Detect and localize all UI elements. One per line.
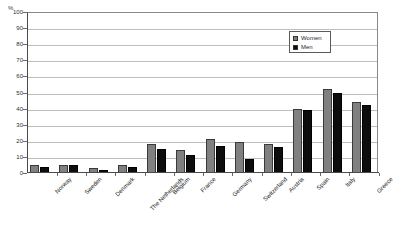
x-axis-category-label: Denmark (114, 176, 135, 197)
legend-item-women: Women (293, 34, 330, 43)
legend-label-women: Women (301, 35, 322, 42)
x-axis-category-label: Norway (54, 176, 73, 195)
y-axis-tick-label: 70 (16, 57, 23, 63)
chart-legend: Women Men (289, 31, 331, 53)
x-axis-labels: NorwaySwedenDenmarkThe NetherlandsBelgiu… (27, 174, 378, 225)
y-axis-tick-label: 40 (16, 106, 23, 112)
bar-chart: % 1009080706050403020100 NorwaySwedenDen… (0, 0, 393, 225)
y-axis-tick-label: 80 (16, 41, 23, 47)
bar-men (333, 93, 342, 174)
bar-women (352, 102, 361, 173)
x-axis-category-label: Greece (376, 176, 393, 194)
legend-swatch-women-icon (293, 36, 298, 41)
bar-women (264, 144, 273, 173)
bar-women (147, 144, 156, 173)
y-axis-tick-label: 30 (16, 122, 23, 128)
bar-women (323, 89, 332, 173)
x-axis-category-label: Switzerland (262, 176, 288, 202)
x-axis-category-label: The Netherlands (149, 176, 185, 212)
bar-group (145, 13, 174, 173)
bar-group (116, 13, 145, 173)
bar-group (204, 13, 233, 173)
bar-men (245, 159, 254, 173)
bar-group (57, 13, 86, 173)
bar-women (235, 142, 244, 173)
bar-men (186, 155, 195, 173)
bar-group (233, 13, 262, 173)
x-axis-category-label: France (200, 176, 217, 193)
y-axis-tick-label: 10 (16, 154, 23, 160)
y-axis-labels: 1009080706050403020100 (0, 0, 27, 185)
y-axis-tick-label: 60 (16, 73, 23, 79)
bar-group (174, 13, 203, 173)
y-axis-tick-label: 50 (16, 90, 23, 96)
y-axis-tick-label: 100 (13, 9, 23, 15)
x-axis-tick (379, 173, 380, 176)
bar-group (262, 13, 291, 173)
y-axis-tick-label: 90 (16, 25, 23, 31)
bar-women (293, 109, 302, 173)
bar-men (303, 110, 312, 173)
x-axis-category-label: Italy (344, 176, 356, 188)
legend-item-men: Men (293, 43, 330, 52)
legend-label-men: Men (301, 44, 313, 51)
chart-title-remnant (0, 0, 393, 6)
bar-men (157, 149, 166, 173)
bar-men (216, 146, 225, 173)
legend-swatch-men-icon (293, 45, 298, 50)
bar-men (362, 105, 371, 173)
x-axis-category-label: Germany (231, 176, 253, 198)
y-axis-tick-label: 20 (16, 138, 23, 144)
x-axis-category-label: Austria (288, 176, 305, 193)
bar-group (350, 13, 379, 173)
x-axis-category-label: Sweden (84, 176, 104, 196)
bar-group (28, 13, 57, 173)
x-axis-line (27, 172, 379, 173)
x-axis-category-label: Spain (316, 176, 331, 191)
bar-men (274, 147, 283, 173)
bar-women (176, 150, 185, 173)
bar-group (87, 13, 116, 173)
bar-women (206, 139, 215, 173)
